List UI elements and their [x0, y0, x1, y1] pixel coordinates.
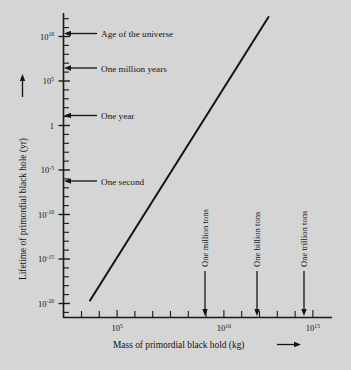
y-tick-label: 105 [43, 76, 55, 86]
annotation-label: Age of the universe [101, 29, 173, 39]
figure-container: 1010 105 1 10-5 10-10 10-15 10-20 105 10… [0, 0, 351, 370]
annotation-label: One second [101, 177, 145, 187]
arrowhead-left-icon [64, 65, 71, 70]
annotation-label: One year [101, 111, 134, 121]
data-line-series [90, 17, 269, 301]
y-axis-title-group: Lifetime of primordial black hole (yr) [18, 74, 29, 280]
arrowhead-left-icon [64, 113, 71, 118]
x-tick-label: 105 [111, 323, 123, 333]
arrowhead-down-icon [202, 309, 207, 316]
arrowhead-right-icon [294, 342, 301, 347]
x-axis-title-group: Mass of primordial black hold (kg) [113, 340, 301, 351]
annotation-label: One million tons [200, 209, 210, 267]
vertical-annotation-one-billion-tons: One billion tons [252, 211, 262, 316]
annotation-label: One trillion tons [299, 210, 309, 267]
arrowhead-down-icon [254, 309, 259, 316]
vertical-annotation-one-trillion-tons: One trillion tons [299, 210, 309, 316]
horizontal-annotation-one-year: One year [64, 111, 134, 121]
x-axis-ticks [82, 310, 313, 318]
arrowhead-down-icon [301, 309, 306, 316]
x-tick-label: 1010 [217, 323, 231, 333]
y-tick-label: 10-20 [38, 298, 54, 308]
y-tick-label: 1 [50, 121, 54, 131]
x-axis-title: Mass of primordial black hold (kg) [113, 340, 244, 351]
annotation-label: One billion tons [252, 211, 262, 267]
arrowhead-left-icon [64, 31, 71, 36]
arrowhead-up-icon [20, 74, 25, 81]
black-hole-lifetime-chart: 1010 105 1 10-5 10-10 10-15 10-20 105 10… [0, 0, 351, 370]
lifetime-vs-mass-line [90, 17, 269, 301]
horizontal-annotation-one-million-years: One million years [64, 64, 167, 74]
y-tick-label: 10-15 [38, 254, 54, 264]
annotation-label: One million years [101, 64, 167, 74]
y-axis-tick-labels: 1010 105 1 10-5 10-10 10-15 10-20 [38, 31, 54, 308]
y-tick-label: 1010 [40, 31, 54, 41]
y-tick-label: 10-10 [38, 209, 54, 219]
horizontal-annotation-age-of-universe: Age of the universe [64, 29, 173, 39]
x-axis-tick-labels: 105 1010 1015 [111, 323, 320, 333]
horizontal-annotation-one-second: One second [64, 177, 145, 187]
vertical-annotation-one-million-tons: One million tons [200, 209, 210, 316]
x-tick-label: 1015 [306, 323, 320, 333]
y-axis-title: Lifetime of primordial black hole (yr) [18, 138, 29, 280]
y-tick-label: 10-5 [41, 165, 54, 175]
